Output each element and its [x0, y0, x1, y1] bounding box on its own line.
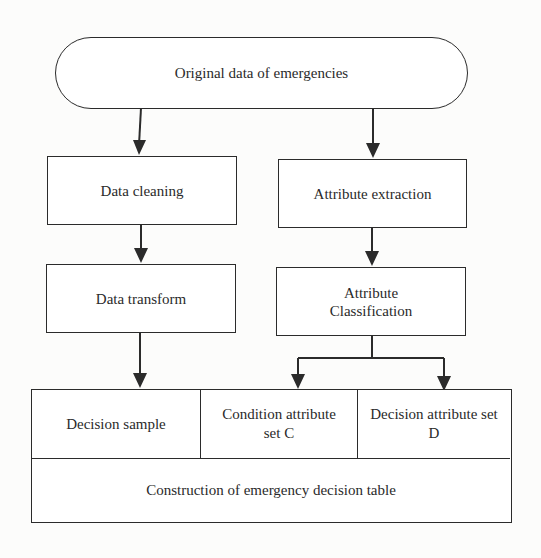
data-transform-node: Data transform — [46, 264, 236, 333]
decision-sample-label: Decision sample — [66, 415, 166, 434]
start-terminal-node: Original data of emergencies — [55, 37, 468, 109]
start-node-label: Original data of emergencies — [175, 64, 348, 82]
data-transform-label: Data transform — [96, 290, 186, 308]
data-cleaning-label: Data cleaning — [101, 182, 184, 200]
attribute-extraction-label: Attribute extraction — [314, 185, 432, 203]
data-cleaning-node: Data cleaning — [47, 156, 237, 225]
attribute-classification-label-line2: Classification — [330, 302, 413, 320]
flowchart-canvas: Original data of emergencies Data cleani… — [0, 0, 541, 558]
condition-attribute-label-line2: set C — [264, 424, 294, 443]
attribute-classification-label-line1: Attribute — [344, 284, 398, 302]
attribute-extraction-node: Attribute extraction — [278, 159, 467, 228]
construction-decision-table-cell: Construction of emergency decision table — [32, 458, 510, 521]
decision-attribute-set-cell: Decision attribute set D — [358, 390, 510, 458]
condition-attribute-label-line1: Condition attribute — [222, 405, 336, 424]
attribute-classification-node: Attribute Classification — [276, 267, 466, 336]
condition-attribute-set-cell: Condition attribute set C — [201, 390, 358, 458]
decision-sample-cell: Decision sample — [32, 390, 201, 458]
decision-table: Decision sample Condition attribute set … — [31, 389, 512, 523]
decision-attribute-label-line2: D — [429, 424, 440, 443]
construction-label: Construction of emergency decision table — [146, 481, 396, 500]
decision-attribute-label-line1: Decision attribute set — [370, 405, 497, 424]
